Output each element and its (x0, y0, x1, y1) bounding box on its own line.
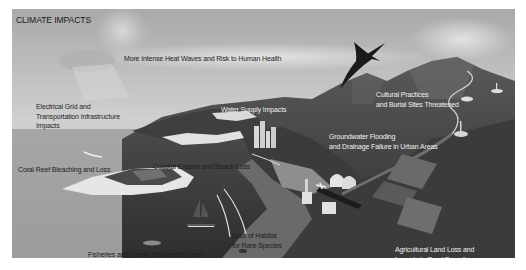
label-habitat-loss: Loss of Habitat for Rare Species (232, 231, 282, 250)
label-cultural-practices: Cultural Practices and Burial Sites Thre… (376, 90, 459, 109)
label-groundwater-line2: and Drainage Failure in Urban Areas (329, 142, 438, 152)
label-groundwater-flooding: Groundwater Flooding and Drainage Failur… (329, 132, 438, 151)
label-agri-line1: Agricultural Land Loss and (395, 245, 474, 255)
label-electrical-grid-line2: Transportation Infrastructure (36, 112, 120, 122)
label-fisheries: Fisheries and Ocean Biodiversity Loss (88, 250, 202, 258)
label-heat-waves: More Intense Heat Waves and Risk to Huma… (124, 54, 281, 64)
diagram-title: CLIMATE IMPACTS (16, 15, 91, 25)
label-habitat-line2: for Rare Species (232, 241, 282, 251)
label-agricultural: Agricultural Land Loss and Impacts to Fo… (395, 245, 474, 258)
label-groundwater-line1: Groundwater Flooding (329, 132, 438, 142)
label-electrical-grid: Electrical Grid and Transportation Infra… (36, 102, 120, 131)
label-habitat-line1: Loss of Habitat (232, 231, 282, 241)
landscape-scene (12, 9, 515, 258)
label-coral-reef: Coral Reef Bleaching and Loss (18, 165, 110, 175)
label-cultural-line1: Cultural Practices (376, 90, 459, 100)
label-water-supply: Water Supply Impacts (221, 105, 286, 115)
label-cultural-line2: and Burial Sites Threatened (376, 100, 459, 110)
climate-impacts-illustration: CLIMATE IMPACTS More Intense Heat Waves … (12, 9, 515, 258)
label-agri-line2: Impacts to Food Security (395, 255, 474, 259)
label-electrical-grid-line3: Impacts (36, 121, 120, 131)
label-electrical-grid-line1: Electrical Grid and (36, 102, 120, 112)
label-coastal-erosion: Coastal Erosion and Beach Loss (153, 162, 250, 172)
